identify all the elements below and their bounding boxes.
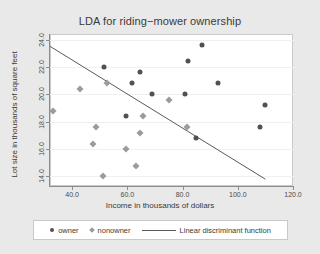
data-point-owner	[199, 43, 204, 48]
data-point-nonowner	[132, 162, 139, 169]
y-tick-label: 14.0	[38, 165, 45, 187]
x-axis-line	[50, 186, 294, 187]
legend-label-discriminant-line: Linear discriminant function	[180, 226, 271, 235]
data-point-owner	[101, 64, 106, 69]
x-tick-label: 40.0	[65, 191, 79, 198]
data-point-nonowner	[77, 85, 84, 92]
y-tick-label: 22.0	[38, 56, 45, 78]
x-tick	[238, 187, 239, 190]
x-tick	[72, 187, 73, 190]
nonowner-marker-icon	[89, 227, 95, 233]
data-point-nonowner	[165, 96, 172, 103]
plot-area	[50, 34, 293, 186]
y-axis-title: Lot size in thousands of square feet	[10, 30, 19, 200]
y-tick-label: 18.0	[38, 111, 45, 133]
y-tick-label: 24.0	[38, 29, 45, 51]
legend-item-discriminant-line: Linear discriminant function	[142, 226, 271, 235]
data-point-owner	[263, 103, 268, 108]
x-tick-label: 80.0	[176, 191, 190, 198]
data-point-owner	[183, 92, 188, 97]
data-point-owner	[129, 81, 134, 86]
y-tick	[46, 176, 49, 177]
data-point-nonowner	[183, 124, 190, 131]
y-tick	[46, 40, 49, 41]
x-tick-label: 120.0	[284, 191, 302, 198]
data-point-nonowner	[99, 173, 106, 180]
y-tick	[46, 149, 49, 150]
y-tick	[46, 67, 49, 68]
data-point-owner	[150, 92, 155, 97]
y-axis-line	[49, 34, 50, 187]
x-tick	[293, 187, 294, 190]
chart-title: LDA for riding−mower ownership	[0, 15, 320, 27]
data-point-nonowner	[49, 107, 56, 114]
legend-label-nonowner: nonowner	[98, 226, 131, 235]
legend-item-owner: owner	[50, 226, 78, 235]
data-points-layer	[50, 34, 293, 186]
data-point-nonowner	[103, 80, 110, 87]
data-point-nonowner	[89, 140, 96, 147]
x-tick-label: 100.0	[229, 191, 247, 198]
data-point-nonowner	[139, 113, 146, 120]
x-axis-title: Income in thousands of dollars	[0, 201, 320, 210]
data-point-owner	[186, 59, 191, 64]
data-point-nonowner	[122, 145, 129, 152]
data-point-owner	[216, 81, 221, 86]
data-point-owner	[123, 114, 128, 119]
line-marker-icon	[142, 230, 176, 231]
legend-item-nonowner: nonowner	[90, 226, 131, 235]
data-point-owner	[137, 70, 142, 75]
legend-label-owner: owner	[58, 226, 78, 235]
y-tick	[46, 94, 49, 95]
owner-marker-icon	[50, 228, 54, 232]
legend: owner nonowner Linear discriminant funct…	[33, 220, 288, 240]
y-tick-label: 16.0	[38, 138, 45, 160]
data-point-owner	[257, 125, 262, 130]
y-tick-label: 20.0	[38, 83, 45, 105]
x-tick	[183, 187, 184, 190]
data-point-nonowner	[136, 129, 143, 136]
y-tick	[46, 122, 49, 123]
graph-canvas: LDA for riding−mower ownership 40.060.08…	[0, 0, 320, 254]
x-tick-label: 60.0	[120, 191, 134, 198]
data-point-nonowner	[92, 124, 99, 131]
data-point-owner	[194, 136, 199, 141]
x-tick	[127, 187, 128, 190]
